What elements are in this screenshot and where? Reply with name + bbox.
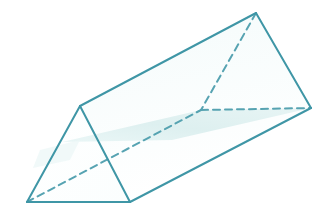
prism-diagram	[0, 0, 331, 220]
prism-faces	[27, 13, 311, 202]
prism-figure-container	[0, 0, 331, 220]
